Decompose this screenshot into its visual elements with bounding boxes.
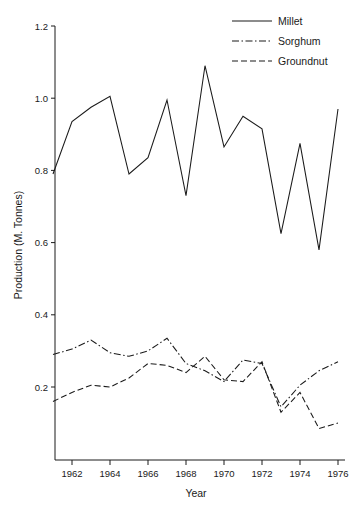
x-tick-label: 1962 bbox=[61, 468, 82, 479]
y-tick-label: 0.8 bbox=[35, 165, 48, 176]
y-tick-label: 0.4 bbox=[35, 309, 48, 320]
series-line-sorghum bbox=[53, 338, 338, 407]
x-axis: 19621964196619681970197219741976 bbox=[55, 460, 349, 479]
x-tick-label: 1970 bbox=[213, 468, 234, 479]
production-line-chart: MilletSorghumGroundnut 0.20.40.60.81.01.… bbox=[0, 0, 355, 511]
legend-label-millet: Millet bbox=[278, 15, 303, 27]
chart-container: MilletSorghumGroundnut 0.20.40.60.81.01.… bbox=[0, 0, 355, 511]
y-tick-label: 0.6 bbox=[35, 237, 48, 248]
x-tick-label: 1974 bbox=[289, 468, 310, 479]
chart-series bbox=[53, 66, 338, 429]
y-axis-title: Production (M. Tonnes) bbox=[12, 191, 24, 299]
x-tick-label: 1976 bbox=[327, 468, 348, 479]
legend-label-sorghum: Sorghum bbox=[278, 35, 321, 47]
legend-label-groundnut: Groundnut bbox=[278, 55, 328, 67]
y-tick-label: 1.2 bbox=[35, 21, 48, 32]
y-axis: 0.20.40.60.81.01.2 bbox=[35, 21, 55, 461]
x-tick-label: 1968 bbox=[175, 468, 196, 479]
series-line-millet bbox=[53, 66, 338, 250]
y-tick-label: 0.2 bbox=[35, 382, 48, 393]
x-axis-title: Year bbox=[185, 487, 207, 499]
chart-legend: MilletSorghumGroundnut bbox=[232, 15, 328, 67]
x-tick-label: 1964 bbox=[99, 468, 120, 479]
y-tick-label: 1.0 bbox=[35, 93, 48, 104]
x-tick-label: 1966 bbox=[137, 468, 158, 479]
x-tick-label: 1972 bbox=[251, 468, 272, 479]
